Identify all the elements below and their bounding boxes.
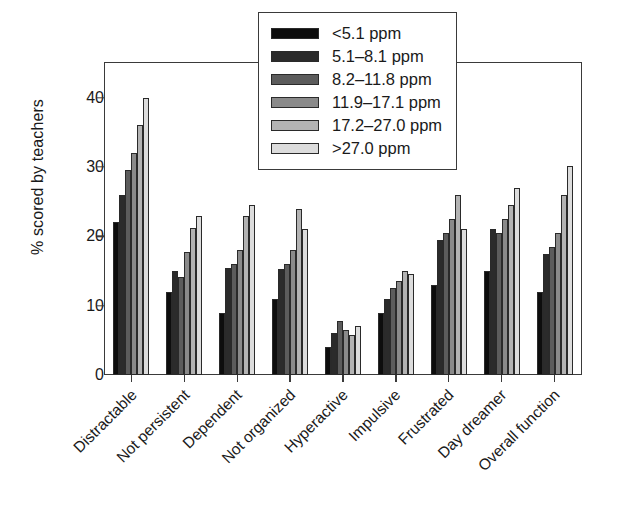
y-axis-title: % scored by teachers — [29, 57, 47, 297]
legend-label: 5.1–8.1 ppm — [332, 48, 424, 65]
x-axis-tick-mark — [184, 375, 185, 382]
y-axis-tick-label: 0 — [60, 367, 104, 383]
x-axis-tick-mark — [289, 375, 290, 382]
legend-label: <5.1 ppm — [332, 25, 401, 42]
bar-chart-figure: % scored by teachers 010203040 Distracta… — [0, 0, 618, 517]
bar — [249, 205, 255, 375]
legend-swatch — [271, 143, 319, 154]
bar — [408, 274, 414, 375]
legend-swatch — [271, 97, 319, 108]
bar-group — [475, 63, 528, 375]
x-axis-tick-mark — [448, 375, 449, 382]
legend-item: <5.1 ppm — [271, 22, 442, 45]
x-axis-label-group: DistractableNot persistentDependentNot o… — [0, 386, 618, 517]
x-axis-tick-mark — [131, 375, 132, 382]
x-axis-tick-mark — [395, 375, 396, 382]
x-axis-tick-mark — [501, 375, 502, 382]
bar-group — [528, 63, 581, 375]
x-axis-tick-mark — [342, 375, 343, 382]
legend: <5.1 ppm5.1–8.1 ppm8.2–11.8 ppm11.9–17.1… — [258, 12, 457, 170]
x-axis-tick-mark — [554, 375, 555, 382]
legend-label: 17.2–27.0 ppm — [332, 117, 442, 134]
x-axis-tick-mark — [237, 375, 238, 382]
legend-item: 11.9–17.1 ppm — [271, 91, 442, 114]
bar — [567, 166, 573, 375]
bar-group — [105, 63, 158, 375]
legend-swatch — [271, 28, 319, 39]
bar — [355, 326, 361, 375]
bar — [514, 188, 520, 375]
bar — [143, 98, 149, 375]
legend-item: 5.1–8.1 ppm — [271, 45, 442, 68]
bar — [461, 229, 467, 375]
legend-swatch — [271, 120, 319, 131]
bar — [302, 229, 308, 375]
legend-item: 8.2–11.8 ppm — [271, 68, 442, 91]
bar-group — [158, 63, 211, 375]
legend-label: 11.9–17.1 ppm — [332, 94, 441, 111]
legend-item: >27.0 ppm — [271, 137, 442, 160]
legend-label: 8.2–11.8 ppm — [332, 71, 432, 88]
bar — [196, 216, 202, 375]
legend-item: 17.2–27.0 ppm — [271, 114, 442, 137]
bar-group — [211, 63, 264, 375]
legend-swatch — [271, 51, 319, 62]
legend-label: >27.0 ppm — [332, 140, 410, 157]
legend-swatch — [271, 74, 319, 85]
